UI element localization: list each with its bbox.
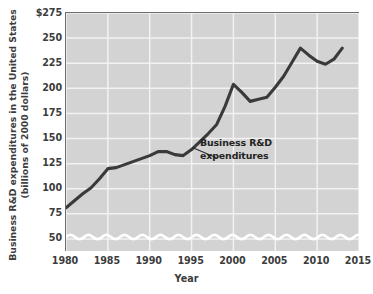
- plot-svg: [66, 13, 359, 251]
- series-annotation-line-1: Business R&D: [200, 137, 310, 150]
- x-axis-title: Year: [0, 273, 373, 284]
- plot-area: [65, 12, 359, 251]
- x-axis-tick-label: 1980: [52, 255, 78, 266]
- y-axis-tick-label: 100: [0, 182, 62, 193]
- x-axis-tick-label: 1995: [177, 255, 203, 266]
- y-axis-tick-label: 125: [0, 157, 62, 168]
- y-axis-tick-label: 75: [0, 207, 62, 218]
- horizontal-gridlines: [66, 13, 359, 239]
- x-axis-tick-label: 1985: [94, 255, 120, 266]
- x-axis-tick-label: 1990: [136, 255, 162, 266]
- x-axis-tick-labels: 19801985199019952000200520102015: [0, 255, 373, 271]
- y-axis-tick-label: $275: [0, 6, 62, 17]
- series-annotation: Business R&D expenditures: [200, 137, 310, 163]
- x-axis-tick-label: 2000: [219, 255, 245, 266]
- x-axis-tick-label: 2010: [303, 255, 329, 266]
- y-axis-tick-label: 50: [0, 232, 62, 243]
- vertical-gridlines: [66, 13, 359, 251]
- series-annotation-line-2: expenditures: [200, 150, 310, 163]
- x-axis-tick-label: 2005: [261, 255, 287, 266]
- chart-figure: Business R&D expenditures in the United …: [0, 0, 373, 294]
- y-axis-tick-labels: $2752502252001751501251007550: [0, 0, 62, 294]
- y-axis-tick-label: 200: [0, 81, 62, 92]
- y-axis-tick-label: 150: [0, 132, 62, 143]
- y-axis-tick-label: 250: [0, 31, 62, 42]
- x-axis-tick-label: 2015: [345, 255, 371, 266]
- y-axis-tick-label: 175: [0, 106, 62, 117]
- y-axis-tick-label: 225: [0, 56, 62, 67]
